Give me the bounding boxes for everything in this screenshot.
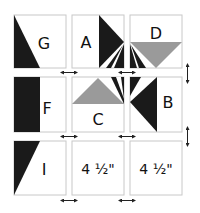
block-label-b: B bbox=[163, 93, 174, 112]
size-label: 4 ½" bbox=[139, 161, 172, 177]
block-a: A bbox=[72, 15, 124, 68]
block-d: D bbox=[130, 15, 182, 68]
block-label-i: I bbox=[42, 160, 47, 179]
block-plain-2: 4 ½" bbox=[130, 141, 182, 195]
block-plain-1: 4 ½" bbox=[72, 141, 124, 195]
dark-rectangle bbox=[14, 77, 40, 132]
block-label-g: G bbox=[38, 34, 50, 53]
size-label: 4 ½" bbox=[81, 161, 114, 177]
block-label-f: F bbox=[42, 99, 51, 118]
block-i: I bbox=[14, 141, 66, 195]
quilt-layout-diagram: G A D F C B I 4 ½" bbox=[0, 0, 200, 213]
block-label-d: D bbox=[150, 24, 162, 43]
block-label-c: C bbox=[92, 110, 103, 129]
block-f: F bbox=[14, 77, 66, 132]
block-g: G bbox=[14, 15, 66, 68]
block-b: B bbox=[130, 77, 182, 132]
block-c: C bbox=[72, 77, 124, 132]
block-label-a: A bbox=[81, 33, 92, 52]
